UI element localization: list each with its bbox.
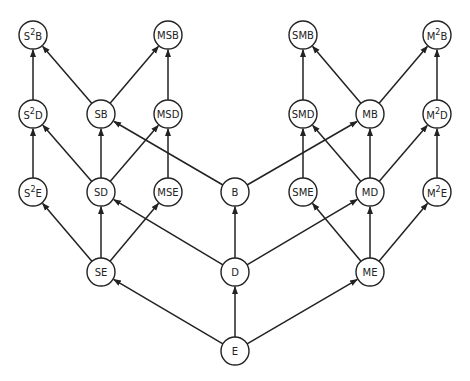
node-m2b: M2B [423, 21, 451, 49]
edge-sb-to-s2b [43, 46, 92, 103]
lattice-diagram: S2BMSBSMBM2BS2DSBMSDSMDMBM2DS2ESDMSEBSME… [0, 0, 470, 381]
node-smb: SMB [289, 21, 317, 49]
node-m2e: M2E [423, 178, 451, 206]
node-label: MD [362, 187, 379, 198]
edge-b-to-mb [247, 122, 357, 186]
edge-d-to-md [247, 200, 357, 265]
edge-se-to-s2e [43, 203, 92, 261]
edge-sb-to-msb [110, 46, 158, 103]
node-mb: MB [356, 100, 384, 128]
node-s2d: S2D [19, 100, 47, 128]
node-label: E [232, 346, 238, 357]
edge-e-to-se [114, 280, 223, 344]
node-sb: SB [87, 100, 115, 128]
node-msb: MSB [154, 21, 182, 49]
node-label: SB [94, 109, 107, 120]
node-label: SD [94, 187, 108, 198]
node-d: D [221, 258, 249, 286]
edge-me-to-m2e [379, 204, 427, 262]
node-label: MB [362, 109, 378, 120]
node-label: SMB [292, 30, 314, 41]
edge-mb-to-m2b [379, 46, 427, 103]
node-label: D [231, 267, 239, 278]
edge-md-to-m2d [379, 125, 427, 181]
node-label: MSE [157, 187, 178, 198]
node-se: SE [87, 258, 115, 286]
node-label: MSB [157, 30, 179, 41]
node-label: ME [363, 267, 378, 278]
node-label: SE [95, 267, 108, 278]
node-e: E [221, 337, 249, 365]
edge-mb-to-smb [313, 46, 361, 103]
node-label: SME [292, 187, 313, 198]
node-msd: MSD [154, 100, 182, 128]
node-s2b: S2B [19, 21, 47, 49]
node-mse: MSE [154, 178, 182, 206]
edge-e-to-me [247, 280, 357, 344]
node-m2d: M2D [423, 100, 451, 128]
edge-d-to-sd [114, 200, 223, 265]
node-label: SMD [292, 109, 315, 120]
node-label: MSD [157, 109, 180, 120]
node-sd: SD [87, 178, 115, 206]
node-s2e: S2E [19, 178, 47, 206]
node-sme: SME [289, 178, 317, 206]
node-smd: SMD [289, 100, 317, 128]
node-me: ME [356, 258, 384, 286]
node-label: B [232, 187, 239, 198]
node-b: B [221, 178, 249, 206]
node-md: MD [356, 178, 384, 206]
edge-sd-to-s2d [43, 125, 92, 181]
